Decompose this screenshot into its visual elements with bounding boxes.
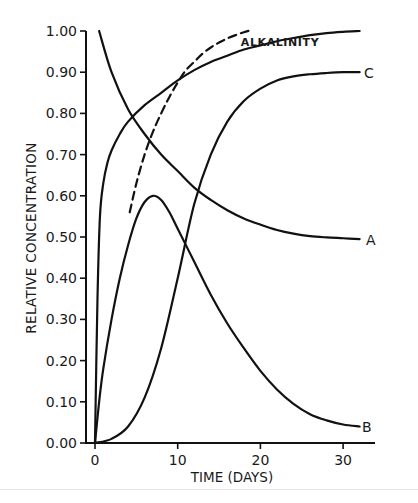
y-tick-label: 0.10	[46, 394, 77, 410]
divider	[0, 489, 418, 490]
curve-c-label: C	[364, 65, 374, 81]
y-axis-ticks: 0.000.100.200.300.400.500.600.700.800.90…	[46, 23, 86, 451]
series-c	[95, 72, 360, 443]
y-tick-label: 0.90	[46, 64, 77, 80]
y-tick-label: 0.70	[46, 147, 77, 163]
x-axis-ticks: 0102030	[91, 443, 352, 468]
alkalinity-label: ALKALINITY	[241, 36, 320, 49]
series-b	[95, 196, 360, 443]
x-tick-label: 10	[169, 452, 187, 468]
series-a	[99, 31, 360, 239]
y-tick-label: 0.30	[46, 311, 77, 327]
x-tick-label: 20	[251, 452, 269, 468]
x-axis-label: TIME (DAYS)	[190, 469, 273, 485]
y-tick-label: 0.40	[46, 270, 77, 286]
series-layer	[95, 30, 360, 443]
y-tick-label: 0.80	[46, 105, 77, 121]
y-tick-label: 0.00	[46, 435, 77, 451]
x-tick-label: 0	[91, 452, 100, 468]
chart: 0.000.100.200.300.400.500.600.700.800.90…	[0, 0, 418, 503]
curve-a-label: A	[366, 232, 376, 248]
y-tick-label: 0.60	[46, 188, 77, 204]
y-tick-label: 1.00	[46, 23, 77, 39]
y-tick-label: 0.20	[46, 353, 77, 369]
curve-b-label: B	[362, 419, 372, 435]
y-tick-label: 0.50	[46, 229, 77, 245]
y-axis-label: RELATIVE CONCENTRATION	[23, 142, 39, 333]
x-tick-label: 30	[334, 452, 352, 468]
